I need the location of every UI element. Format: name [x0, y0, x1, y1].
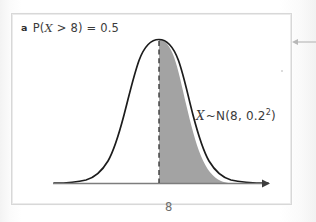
scan-speck: [281, 70, 283, 72]
right-arrow-icon: [262, 180, 270, 188]
leader-line-callout: [292, 34, 316, 50]
figure-screenshot: aP(X > 8) = 0.5 X~N(8, 0.22) 8: [0, 0, 316, 222]
left-arrow-icon: [292, 39, 298, 45]
x-axis-tick-label: 8: [165, 200, 172, 214]
annotation-notation: ~N(8, 0.2: [206, 109, 266, 123]
figure-panel: aP(X > 8) = 0.5 X~N(8, 0.22) 8: [11, 13, 292, 205]
distribution-annotation: X~N(8, 0.22): [196, 108, 276, 123]
annotation-suffix: ): [271, 109, 276, 123]
annotation-random-variable: X: [196, 109, 205, 123]
